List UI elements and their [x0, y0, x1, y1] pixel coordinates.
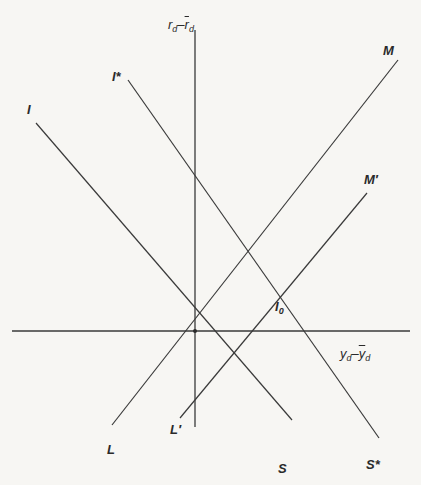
label-l: L [107, 443, 115, 456]
vertical-axis-label: rd–rd [168, 18, 194, 34]
label-s: S [278, 462, 287, 475]
label-s-star: S* [366, 458, 380, 471]
diagram-lines [0, 0, 421, 485]
lm-prime-curve [180, 193, 367, 418]
h-label-sub2: d [365, 353, 370, 363]
h-label-minus: – [352, 346, 359, 361]
label-equilibrium-i0: I0 [275, 300, 284, 316]
label-l-prime: L′ [170, 423, 181, 436]
diagram-canvas: rd–rd yd–yd I I* M M′ L L′ S S* I0 [0, 0, 421, 485]
label-m: M [383, 44, 394, 57]
is-curve [36, 123, 292, 420]
is-star-curve [128, 80, 379, 438]
label-i-star: I* [112, 70, 121, 83]
i0-sub: 0 [279, 306, 284, 316]
v-label-sub2: d [189, 24, 194, 34]
label-i: I [27, 103, 31, 116]
lm-curve [112, 60, 398, 425]
horizontal-axis-label: yd–yd [340, 347, 370, 363]
v-label-minus: – [177, 17, 184, 32]
origin-point [193, 329, 197, 333]
label-m-prime: M′ [364, 173, 378, 186]
